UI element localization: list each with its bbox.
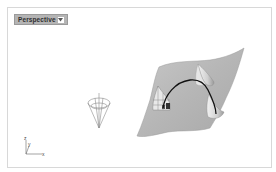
3d-scene[interactable]: x z y xyxy=(0,0,276,172)
axis-y-label: y xyxy=(28,141,31,147)
wireframe-cone[interactable] xyxy=(88,93,110,128)
axis-x-label: x xyxy=(42,151,45,157)
nurbs-surface[interactable] xyxy=(137,48,244,137)
axis-z-label: z xyxy=(24,135,27,141)
